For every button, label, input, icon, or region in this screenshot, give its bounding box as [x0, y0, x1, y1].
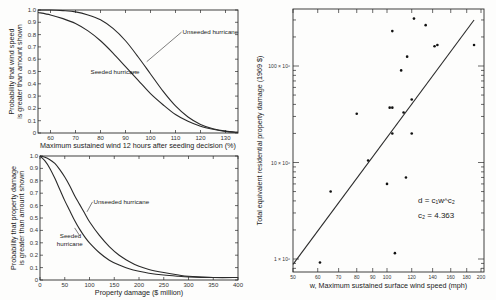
plot-frame	[40, 156, 238, 280]
data-point	[391, 106, 394, 109]
data-point	[473, 44, 476, 47]
unseeded-leader	[147, 32, 182, 62]
y-axis-label-line2: is greater than amount shown	[17, 171, 26, 266]
y-tick-label: 0.2	[28, 105, 37, 111]
y-tick-label: 0.8	[30, 178, 39, 184]
data-point	[406, 55, 409, 58]
data-point	[391, 30, 394, 33]
data-point	[319, 261, 322, 264]
unseeded-leader	[87, 202, 92, 212]
seeded-label-line1: Seeded	[60, 232, 82, 239]
x-tick-label: 0	[38, 282, 42, 288]
x-tick-label: 400	[233, 282, 244, 288]
x-axis-label: w, Maximum sustained surface wind speed …	[309, 281, 467, 290]
x-tick-label: 350	[208, 282, 219, 288]
y-tick-label: 0	[33, 130, 37, 136]
y-tick-label: 0.7	[30, 190, 39, 196]
y-tick-label: 0.9	[30, 165, 39, 171]
y-tick-label: 0.2	[30, 252, 39, 258]
wind-probability-chart: 00.10.20.30.40.50.60.70.80.91.0607080901…	[7, 7, 239, 150]
x-tick-label: 100	[84, 282, 95, 288]
data-point	[386, 183, 389, 186]
x-tick-label: 90	[370, 274, 376, 280]
data-point	[405, 176, 408, 179]
y-tick-label: 0.1	[30, 265, 39, 271]
x-axis-label: Property damage ($ million)	[95, 288, 183, 297]
y-axis-label: Total equivalent residential property da…	[255, 56, 264, 226]
y-tick-label: 1 × 10⁶	[274, 256, 290, 262]
y-tick-label: 0.6	[30, 203, 39, 209]
regression-line	[293, 20, 474, 264]
data-point	[410, 98, 413, 101]
data-point	[394, 252, 397, 255]
x-tick-label: 80	[354, 274, 360, 280]
y-tick-label: 0.5	[30, 215, 39, 221]
y-tick-label: 0.1	[28, 118, 37, 124]
y-tick-label: 0.7	[28, 44, 37, 50]
data-point	[410, 132, 413, 135]
data-point	[388, 106, 391, 109]
x-tick-label: 50	[290, 274, 296, 280]
x-tick-label: 200	[477, 274, 486, 280]
y-tick-label: 0.9	[28, 19, 37, 25]
y-tick-label: 0.3	[28, 93, 37, 99]
y-tick-label: 100 × 10⁶	[268, 63, 290, 69]
y-tick-label: 1.0	[28, 7, 37, 13]
y-tick-label: 0.6	[28, 56, 37, 62]
unseeded-label: Unseeded hurricane	[183, 28, 239, 35]
data-point	[355, 112, 358, 115]
coefficient-label: c₂ = 4.363	[418, 211, 455, 220]
chart-canvas: 00.10.20.30.40.50.60.70.80.91.0607080901…	[0, 0, 496, 300]
y-tick-label: 0.3	[30, 240, 39, 246]
x-tick-label: 60	[315, 274, 321, 280]
seeded-label-line2: hurricane	[57, 240, 83, 247]
x-tick-label: 120	[408, 274, 417, 280]
data-point	[433, 45, 436, 48]
unseeded-label: Unseeded hurricane	[93, 198, 149, 205]
y-tick-label: 0.5	[28, 69, 37, 75]
x-tick-label: 100	[383, 274, 392, 280]
seeded-curve	[40, 156, 238, 278]
damage-vs-wind-scatter: 1 × 10⁶10 × 10⁶100 × 10⁶5060708090100120…	[255, 9, 485, 290]
y-tick-label: 10 × 10⁶	[271, 160, 290, 166]
data-point	[402, 111, 405, 114]
y-tick-label: 1.0	[30, 153, 39, 159]
y-tick-label: 0.4	[28, 81, 37, 87]
y-tick-label: 0.8	[28, 32, 37, 38]
data-point	[436, 44, 439, 47]
data-point	[424, 24, 427, 27]
x-tick-label: 70	[336, 274, 342, 280]
plot-frame	[293, 9, 484, 272]
y-tick-label: 0.4	[30, 227, 39, 233]
x-tick-label: 300	[183, 282, 194, 288]
damage-probability-chart: 00.10.20.30.40.50.60.70.80.91.0050100150…	[9, 153, 244, 297]
data-point	[413, 17, 416, 20]
y-axis-label-line2: is greater than amount shown	[15, 24, 24, 119]
unseeded-curve	[40, 156, 238, 278]
data-point	[391, 132, 394, 135]
x-tick-label: 160	[447, 274, 456, 280]
x-tick-label: 140	[428, 274, 437, 280]
x-tick-label: 50	[61, 282, 68, 288]
x-tick-label: 180	[463, 274, 472, 280]
x-axis-label: Maximum sustained wind 12 hours after se…	[40, 141, 236, 150]
equation-label: d = c₁w^c₂	[418, 196, 455, 205]
data-point	[400, 69, 403, 72]
data-point	[367, 159, 370, 162]
data-point	[329, 190, 332, 193]
